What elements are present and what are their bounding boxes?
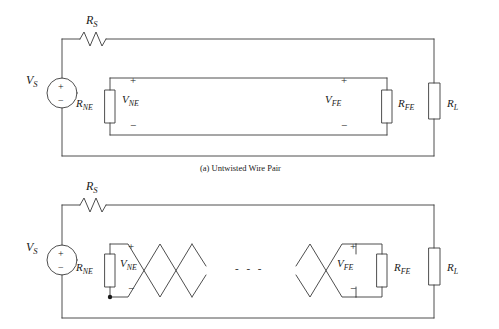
source-plus-b: + [58,248,64,259]
twist-wire-lower-2 [192,275,206,297]
resistor-rne-a [105,90,115,123]
label-rl-a: RL [447,98,458,112]
label-rs-a: RS [86,14,98,29]
rfe-b-lead-top [356,244,382,254]
figure-root: RS VS + − RNE VNE + − VFE + − RFE RL (a)… [0,0,499,329]
resistor-rs-a [80,32,106,46]
vfe-plus-a: + [341,74,347,86]
source-minus-b: − [58,262,64,273]
rfe-b-lead-bot [356,287,382,297]
junction-dot-b [108,295,112,299]
resistor-rfe-a [382,90,392,123]
label-vs-b: VS [26,241,38,256]
label-vfe-b: VFE [337,258,353,272]
label-rfe-a: RFE [398,98,414,112]
resistor-rl-b [429,248,440,285]
resistor-rfe-b [377,254,387,287]
label-vs-a: VS [26,74,38,89]
resistor-rl-a [429,83,440,119]
vfe-minus-b: − [350,282,356,294]
label-rl-b: RL [447,262,458,276]
label-vne-b: VNE [120,258,137,272]
vne-minus-a: − [130,119,136,131]
label-rfe-b: RFE [394,262,410,276]
label-vfe-a: VFE [325,94,341,108]
vne-plus-a: + [130,74,136,86]
label-vne-a: VNE [122,94,139,108]
source-plus-a: + [58,81,64,92]
vne-plus-b: + [128,240,134,252]
ellipsis-dots: - - - [235,262,264,274]
caption-a: (a) Untwisted Wire Pair [200,163,281,173]
resistor-rne-b [105,254,115,287]
vfe-minus-a: − [341,119,347,131]
label-rs-b: RS [86,180,98,195]
twist-wire-upper-2 [192,244,206,266]
label-rne-a: RNE [76,98,93,112]
vne-minus-b: − [128,282,134,294]
resistor-rs-b [80,198,106,212]
vfe-plus-b: + [350,240,356,252]
label-rne-b: RNE [76,262,93,276]
source-minus-a: − [58,95,64,106]
